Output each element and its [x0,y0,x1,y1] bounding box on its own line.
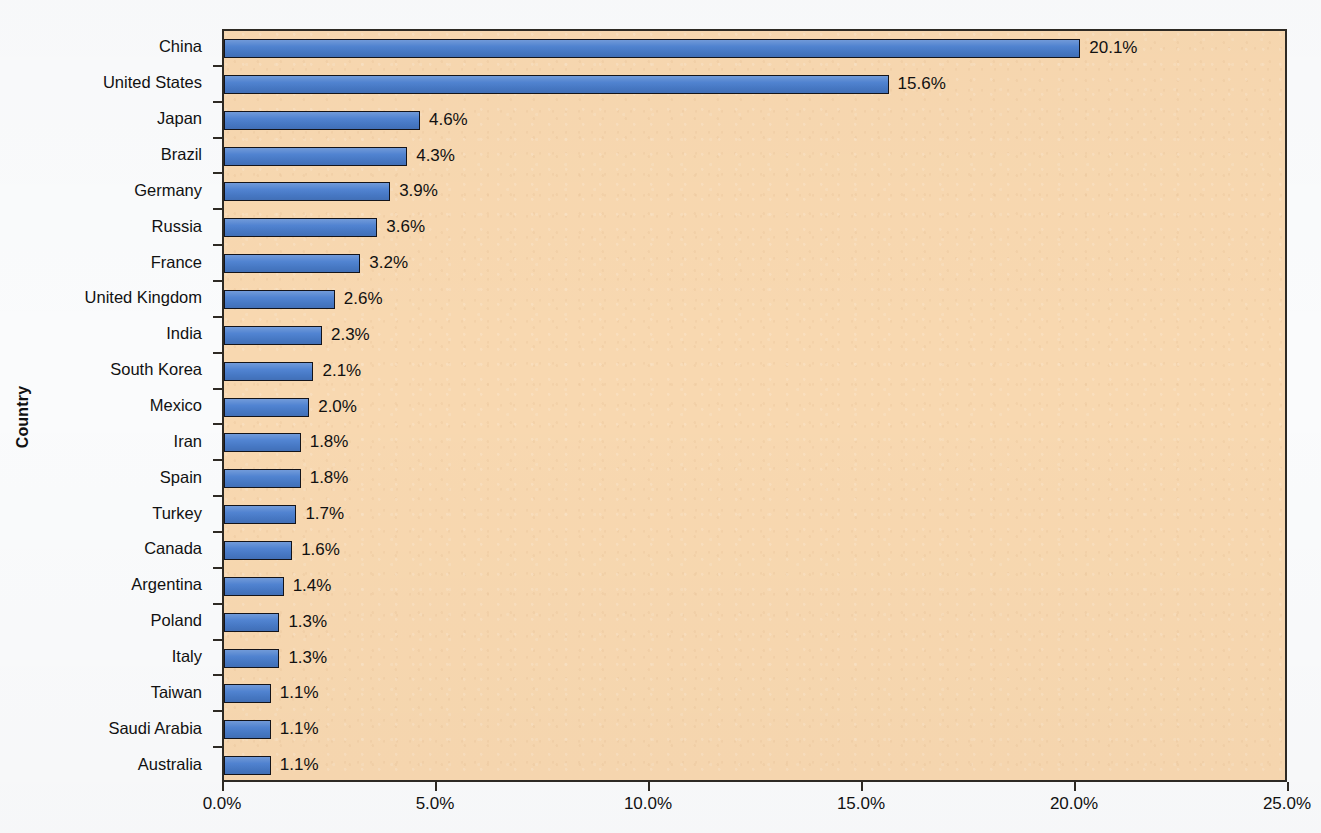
bar-shading [225,470,300,487]
bar [224,469,301,488]
bar-row: 2.0% [224,390,1289,426]
bar-row: 2.1% [224,354,1289,390]
y-axis-category-label: Argentina [131,575,202,593]
y-axis-category-label: Mexico [150,396,202,414]
y-axis-category-label: Taiwan [151,683,202,701]
bar-value-label: 1.8% [310,468,349,488]
x-axis-tick-label: 20.0% [1050,794,1098,814]
y-axis-category-label: China [159,37,202,55]
bar [224,290,335,309]
y-axis-category-label: Australia [138,755,202,773]
y-axis-category-label: Russia [152,217,202,235]
bar-shading [225,40,1079,57]
y-axis-tick [213,137,222,139]
bar [224,39,1080,58]
y-axis-tick [213,746,222,748]
bar [224,218,377,237]
bar-shading [225,614,278,631]
bar-row: 4.3% [224,139,1289,175]
x-axis-ticks [222,782,1287,792]
bar-value-label: 4.3% [416,146,455,166]
bar-value-label: 20.1% [1089,38,1137,58]
bar-value-label: 1.4% [293,576,332,596]
y-axis-tick [213,459,222,461]
bar-row: 1.8% [224,425,1289,461]
bar [224,147,407,166]
bar-shading [225,757,270,774]
y-axis-category-label: United States [103,73,202,91]
y-axis-tick [213,531,222,533]
bar-value-label: 2.3% [331,325,370,345]
bar-row: 20.1% [224,31,1289,67]
y-axis-category-label: South Korea [110,360,202,378]
bar-value-label: 2.6% [344,289,383,309]
y-axis-category-label: Poland [151,611,202,629]
y-axis-tick [213,495,222,497]
bar-row: 3.6% [224,210,1289,246]
bar-row: 1.1% [224,676,1289,712]
y-axis-tick [213,603,222,605]
y-axis-tick [213,172,222,174]
bar-shading [225,363,312,380]
x-axis-tick [1287,782,1289,791]
bar [224,505,296,524]
bar-row: 2.6% [224,282,1289,318]
y-axis-category-label: France [151,253,202,271]
y-axis-ticks [212,29,222,782]
y-axis-tick [213,674,222,676]
x-axis-tick-labels: 0.0%5.0%10.0%15.0%20.0%25.0% [0,794,1321,824]
bar-shading [225,148,406,165]
bar-shading [225,327,321,344]
bar-shading [225,112,419,129]
bar [224,433,301,452]
y-axis-category-label: Brazil [161,145,202,163]
y-axis-tick [213,710,222,712]
plot-area: 20.1%15.6%4.6%4.3%3.9%3.6%3.2%2.6%2.3%2.… [222,29,1287,782]
bar-value-label: 1.1% [280,719,319,739]
y-axis-category-label: Spain [160,468,202,486]
bar-value-label: 1.1% [280,683,319,703]
bar-value-label: 1.3% [288,612,327,632]
bar-value-label: 3.2% [369,253,408,273]
y-axis-category-label: Japan [157,109,202,127]
y-axis-tick [213,639,222,641]
bar [224,684,271,703]
y-axis-category-label: Iran [174,432,202,450]
bar [224,720,271,739]
bar-shading [225,76,888,93]
bar [224,613,279,632]
bar-value-label: 4.6% [429,110,468,130]
bar [224,111,420,130]
x-axis-tick-label: 25.0% [1263,794,1311,814]
bar-row: 1.1% [224,712,1289,748]
bar-row: 1.3% [224,605,1289,641]
bar-row: 1.8% [224,461,1289,497]
x-axis-tick-label: 0.0% [203,794,242,814]
y-axis-category-label: Germany [134,181,202,199]
x-axis-tick [861,782,863,791]
bar [224,254,360,273]
bar-row: 3.9% [224,174,1289,210]
bar [224,362,313,381]
y-axis-category-label: Saudi Arabia [108,719,202,737]
y-axis-tick [213,316,222,318]
bar-value-label: 1.6% [301,540,340,560]
bar-value-label: 1.8% [310,432,349,452]
bar-shading [225,542,291,559]
bar-chart: Country ChinaUnited StatesJapanBrazilGer… [0,0,1321,833]
bar-value-label: 2.0% [318,397,357,417]
y-axis-category-label: India [166,324,202,342]
y-axis-category-label: Italy [172,647,202,665]
bar-shading [225,219,376,236]
bar-shading [225,183,389,200]
bar [224,649,279,668]
x-axis-tick [435,782,437,791]
bar [224,75,889,94]
bar-row: 15.6% [224,67,1289,103]
bar-shading [225,434,300,451]
bar [224,541,292,560]
bar-shading [225,506,295,523]
x-axis-tick-label: 15.0% [837,794,885,814]
y-axis-category-labels: ChinaUnited StatesJapanBrazilGermanyRuss… [0,29,212,782]
bar-value-label: 15.6% [898,74,946,94]
